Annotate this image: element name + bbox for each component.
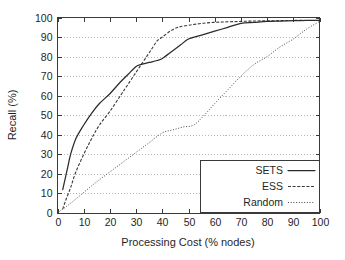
- legend-label-random: Random: [243, 196, 283, 208]
- x-tick-label-40: 40: [157, 216, 169, 228]
- y-tick-label-0: 0: [47, 207, 53, 219]
- chart-figure: 0102030405060708090100 01020304050607080…: [0, 0, 345, 260]
- x-tick-label-50: 50: [184, 216, 196, 228]
- y-tick-label-10: 10: [41, 187, 53, 199]
- x-tick-label-60: 60: [210, 216, 222, 228]
- y-tick-label-100: 100: [35, 12, 53, 24]
- chart-legend: SETS ESS Random: [201, 161, 320, 213]
- y-tick-label-80: 80: [41, 51, 53, 63]
- y-tick-label-50: 50: [41, 109, 53, 121]
- x-tick-label-70: 70: [236, 216, 248, 228]
- y-tick-label-20: 20: [41, 168, 53, 180]
- x-tick-label-30: 30: [131, 216, 143, 228]
- x-tick-label-80: 80: [262, 216, 274, 228]
- legend-label-ess: ESS: [262, 180, 283, 192]
- recall-vs-processing-cost-chart: 0102030405060708090100 01020304050607080…: [0, 0, 345, 260]
- y-tick-label-60: 60: [41, 90, 53, 102]
- y-tick-label-90: 90: [41, 31, 53, 43]
- legend-label-sets: SETS: [256, 164, 283, 176]
- x-tick-label-20: 20: [105, 216, 117, 228]
- y-tick-label-70: 70: [41, 70, 53, 82]
- x-tick-label-90: 90: [288, 216, 300, 228]
- y-tick-label-40: 40: [41, 129, 53, 141]
- x-tick-label-100: 100: [312, 216, 330, 228]
- y-axis-title: Recall (%): [6, 90, 18, 141]
- y-tick-label-30: 30: [41, 148, 53, 160]
- x-tick-label-10: 10: [79, 216, 91, 228]
- x-axis-title: Processing Cost (% nodes): [121, 236, 254, 248]
- x-tick-label-0: 0: [56, 216, 62, 228]
